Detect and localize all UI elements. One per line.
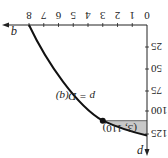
q-tick-2: 2: [115, 10, 121, 22]
demand-curve-figure: 0 1 2 3 4 5 6 7 8 25 50 75 100 125 p q (…: [0, 0, 167, 158]
p-tick-labels: 25 50 75 100 125: [151, 41, 168, 140]
q-tick-4: 4: [85, 10, 91, 22]
q-tick-7: 7: [41, 10, 47, 22]
q-axis-label: q: [11, 26, 17, 40]
p-axis-arrow-icon: [145, 149, 150, 156]
curve-label: p = D(q): [55, 90, 96, 103]
point-label: (3, 110): [102, 122, 137, 135]
p-tick-50: 50: [151, 63, 163, 75]
p-axis-label: p: [137, 145, 144, 158]
p-tick-100: 100: [151, 105, 168, 117]
q-tick-0: 0: [144, 10, 150, 22]
q-tick-labels: 0 1 2 3 4 5 6 7 8: [26, 10, 150, 22]
q-tick-3: 3: [100, 10, 106, 22]
q-tick-5: 5: [70, 10, 76, 22]
q-tick-1: 1: [130, 10, 136, 22]
q-tick-8: 8: [26, 10, 32, 22]
p-tick-75: 75: [151, 85, 163, 97]
p-tick-25: 25: [151, 41, 163, 53]
q-axis-arrow-icon: [2, 23, 9, 28]
demand-curve: [29, 25, 147, 136]
q-tick-6: 6: [55, 10, 61, 22]
p-tick-125: 125: [151, 128, 168, 140]
